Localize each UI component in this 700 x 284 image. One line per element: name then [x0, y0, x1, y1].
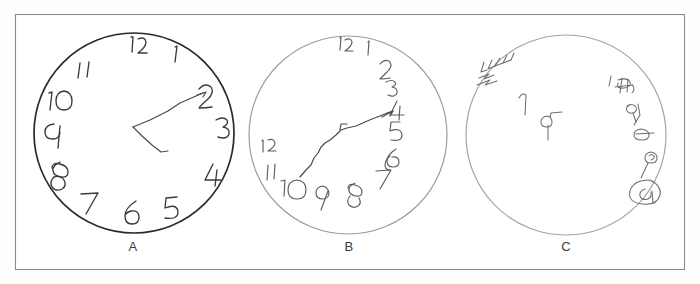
panel-label-b: B	[329, 239, 369, 254]
clock-drawing-test-figure: A B C	[0, 0, 700, 284]
panel-label-a: A	[113, 239, 153, 254]
panel-label-c: C	[546, 239, 586, 254]
